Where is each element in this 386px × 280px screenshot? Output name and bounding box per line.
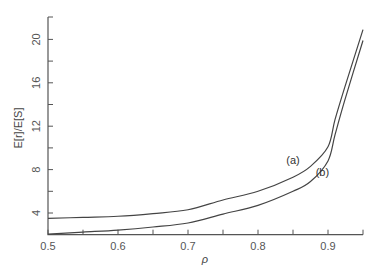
y-tick-label: 8 — [30, 167, 42, 173]
curve-a — [48, 30, 363, 219]
x-axis-ticks: 0.50.60.70.80.9 — [40, 230, 363, 252]
y-tick-label: 16 — [30, 77, 42, 89]
x-tick-label: 0.5 — [40, 240, 55, 252]
y-tick-label: 20 — [30, 33, 42, 45]
y-tick-label: 12 — [30, 120, 42, 132]
x-tick-label: 0.8 — [250, 240, 265, 252]
y-axis-ticks: 48121620 — [30, 33, 53, 216]
x-axis-label: ρ — [201, 253, 208, 265]
x-tick-label: 0.9 — [320, 240, 335, 252]
x-tick-label: 0.7 — [180, 240, 195, 252]
curve-label-a: (a) — [286, 154, 299, 166]
axes — [48, 17, 363, 235]
chart: 48121620 0.50.60.70.80.9 (a)(b) E[r]/E[S… — [0, 0, 386, 280]
axis-lines — [48, 17, 363, 235]
curves: (a)(b) — [48, 30, 363, 235]
curve-label-b: (b) — [316, 166, 329, 178]
y-tick-label: 4 — [30, 210, 42, 216]
y-axis-label: E[r]/E[S] — [12, 108, 24, 149]
x-tick-label: 0.6 — [110, 240, 125, 252]
